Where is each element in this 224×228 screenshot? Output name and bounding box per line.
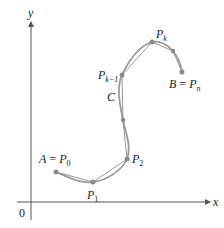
x-axis-label: x: [212, 195, 219, 209]
point-mid: [121, 118, 125, 122]
diagram-canvas: y x 0 C A = P0 P1 P2 Pk−1 Pk B = Pn: [0, 0, 224, 228]
label-p1: P1: [86, 188, 98, 204]
label-pk: Pk: [155, 27, 167, 43]
origin-label: 0: [19, 206, 25, 220]
point-pn: [180, 70, 185, 75]
point-p0: [54, 170, 59, 175]
curve-label: C: [107, 90, 116, 104]
point-pk: [150, 40, 155, 45]
label-pk-1: Pk−1: [97, 68, 118, 84]
point-pk+1: [171, 49, 175, 53]
point-p2: [125, 157, 130, 162]
label-b-pn: B = Pn: [169, 77, 200, 93]
y-axis-label: y: [27, 6, 34, 20]
label-a-p0: A = P0: [38, 152, 70, 168]
inscribed-polygon: [56, 42, 182, 182]
curve-c: [56, 42, 182, 183]
partition-points: [54, 40, 185, 185]
point-p1: [91, 180, 96, 185]
arc-length-diagram: y x 0 C A = P0 P1 P2 Pk−1 Pk B = Pn: [0, 0, 224, 228]
point-pk-1: [120, 73, 125, 78]
label-p2: P2: [131, 152, 143, 168]
